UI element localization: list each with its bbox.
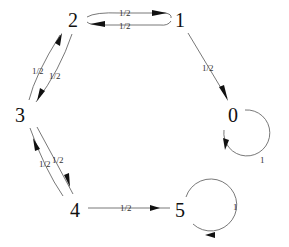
edge-label-1-2: 1/2: [119, 21, 131, 31]
node-3: 3: [15, 104, 25, 126]
edge-2-to-1: 1/2: [87, 8, 171, 18]
edge-label-3-4: 1/2: [52, 155, 64, 165]
node-4: 4: [70, 199, 80, 221]
node-0: 0: [228, 104, 238, 126]
node-2: 2: [68, 9, 78, 31]
edge-label-3-2: 1/2: [32, 66, 44, 76]
edge-4-to-5: 1/2: [88, 203, 170, 213]
node-5: 5: [175, 199, 185, 221]
arrowhead-icon: [37, 88, 45, 101]
arrowhead-icon: [33, 138, 40, 151]
arrowhead-icon: [90, 21, 105, 27]
edge-label-5-5: 1: [233, 202, 238, 212]
edge-label-2-3: 1/2: [49, 71, 61, 81]
edge-label-4-5: 1/2: [120, 203, 132, 213]
arrowhead-icon: [55, 33, 62, 46]
edge-1-to-0: 1/2: [188, 33, 228, 101]
edge-label-1-0: 1/2: [202, 63, 214, 73]
node-1: 1: [175, 9, 185, 31]
edge-1-to-2: 1/2: [87, 21, 171, 31]
arrowhead-icon: [219, 85, 228, 101]
arrowhead-icon: [223, 138, 229, 150]
arrowhead-icon: [150, 205, 160, 211]
edge-label-4-3: 1/2: [39, 159, 51, 169]
arrowhead-icon: [152, 10, 167, 16]
edge-3-to-2: 1/2: [29, 33, 62, 100]
edge-5-self-loop: 1: [186, 179, 238, 238]
arrowhead-icon: [205, 232, 215, 238]
markov-chain-diagram: 2 1 0 3 4 5 1/2 1/2 1/2 1 1/2 1/2: [0, 0, 289, 247]
edge-label-2-1: 1/2: [119, 8, 131, 18]
arrowhead-icon: [64, 173, 70, 187]
edge-label-0-0: 1: [260, 155, 265, 165]
